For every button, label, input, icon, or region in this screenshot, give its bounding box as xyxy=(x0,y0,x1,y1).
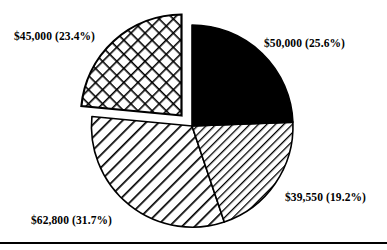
slice-label-50000: $50,000 (25.6%) xyxy=(264,38,345,50)
pie-chart-figure: $50,000 (25.6%) $39,550 (19.2%) $62,800 … xyxy=(0,0,387,250)
bottom-divider-rule xyxy=(0,242,387,244)
slice-label-62800: $62,800 (31.7%) xyxy=(31,215,112,227)
slice-label-39550: $39,550 (19.2%) xyxy=(285,192,366,204)
slice-label-45000: $45,000 (23.4%) xyxy=(14,31,95,43)
